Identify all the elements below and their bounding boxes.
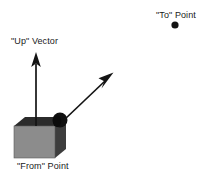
to-point-dot bbox=[171, 21, 178, 28]
camera-cube-front-face bbox=[14, 126, 55, 158]
to-point-label: "To" Point bbox=[156, 10, 196, 21]
view-direction-arrow-shaft bbox=[64, 81, 105, 120]
diagram-canvas: "To" Point "Up" Vector "From" Point bbox=[0, 0, 208, 179]
from-point-label: "From" Point bbox=[17, 161, 69, 172]
diagram-vector-graphics bbox=[0, 0, 208, 179]
camera-lens-rim bbox=[53, 115, 61, 127]
up-vector-label: "Up" Vector bbox=[11, 36, 58, 47]
